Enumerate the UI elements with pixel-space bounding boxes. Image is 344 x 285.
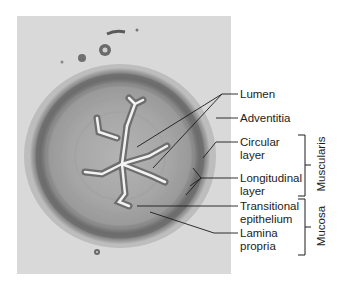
group-label-muscularis: Muscularis (315, 134, 327, 194)
label-longitudinal-layer: Longitudinal layer (240, 172, 302, 197)
label-circular-layer: Circular layer (240, 136, 280, 161)
group-label-mucosa: Mucosa (315, 201, 327, 251)
leader-lines (0, 0, 344, 285)
label-transitional-epithelium: Transitional epithelium (240, 200, 299, 225)
label-adventitia: Adventitia (240, 112, 291, 125)
label-lamina-propria: Lamina propria (240, 227, 278, 252)
label-lumen: Lumen (240, 88, 275, 101)
